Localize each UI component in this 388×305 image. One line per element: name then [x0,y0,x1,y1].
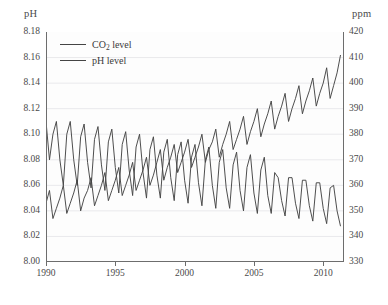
x-tick-label: 2005 [234,268,274,278]
left-tick-label: 8.16 [4,52,40,62]
x-tick-label: 1990 [26,268,66,278]
chart-container: pH ppm 8.188.168.148.128.108.088.068.048… [0,0,388,305]
left-tick-label: 8.10 [4,128,40,138]
x-tickmark [254,262,255,266]
x-tick-label: 1995 [95,268,135,278]
right-tick-label: 380 [349,128,383,138]
x-tick-label: 2000 [165,268,205,278]
x-tickmark [46,262,47,266]
left-axis-unit-label: pH [24,8,37,19]
legend-label-co2: CO2 level [92,39,132,50]
right-tick-label: 370 [349,154,383,164]
x-tickmark [185,262,186,266]
right-tick-label: 390 [349,103,383,113]
left-tick-label: 8.08 [4,154,40,164]
chart-legend: CO2 level pH level [60,36,132,68]
x-tickmark [323,262,324,266]
legend-item-co2: CO2 level [60,36,132,52]
right-tick-label: 350 [349,205,383,215]
x-tickmark [115,262,116,266]
legend-line-icon [60,44,86,45]
right-tick-label: 360 [349,179,383,189]
left-tick-label: 8.00 [4,256,40,266]
series-lines [46,55,341,226]
left-tick-label: 8.02 [4,230,40,240]
x-tick-label: 2010 [303,268,343,278]
left-tick-label: 8.12 [4,103,40,113]
right-tick-label: 340 [349,230,383,240]
right-tick-label: 330 [349,256,383,266]
legend-subscript: 2 [106,43,110,52]
left-tick-label: 8.18 [4,26,40,36]
right-tick-label: 410 [349,52,383,62]
series-line-co2 [46,55,341,219]
legend-line-icon [60,60,86,61]
left-tick-label: 8.06 [4,179,40,189]
right-axis-unit-label: ppm [352,8,371,19]
right-tick-label: 420 [349,26,383,36]
legend-item-ph: pH level [60,52,132,68]
legend-label-ph: pH level [92,55,126,66]
left-tick-label: 8.04 [4,205,40,215]
left-tick-label: 8.14 [4,77,40,87]
right-tick-label: 400 [349,77,383,87]
